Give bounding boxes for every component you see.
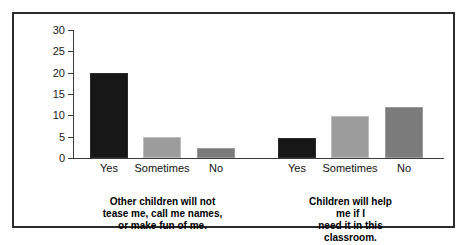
category-label-g2-yes: Yes xyxy=(288,163,306,174)
y-tick-label: 10 xyxy=(53,110,65,121)
y-tick-mark xyxy=(68,115,73,116)
chart-frame: 051015202530 YesSometimesNoYesSometimesN… xyxy=(12,12,455,228)
y-tick-mark xyxy=(68,94,73,95)
bar-g2-no xyxy=(385,107,423,158)
x-axis-line xyxy=(73,158,444,159)
group-caption-2: Children will help me if I need it in th… xyxy=(304,196,398,244)
category-label-g1-no: No xyxy=(209,163,223,174)
y-tick-label: 0 xyxy=(59,153,65,164)
y-tick-label: 20 xyxy=(53,67,65,78)
y-tick-mark xyxy=(68,73,73,74)
bar-g2-sometimes xyxy=(331,116,369,158)
y-tick-mark xyxy=(68,30,73,31)
y-axis-line xyxy=(73,30,74,158)
y-tick-label: 25 xyxy=(53,46,65,57)
bar-g1-no xyxy=(197,148,235,158)
y-tick-label: 5 xyxy=(59,131,65,142)
bar-g2-yes xyxy=(278,138,316,158)
y-tick-label: 30 xyxy=(53,25,65,36)
y-tick-label: 15 xyxy=(53,89,65,100)
y-tick-mark xyxy=(68,51,73,52)
bar-g1-yes xyxy=(90,73,128,158)
plot-area: 051015202530 YesSometimesNoYesSometimesN… xyxy=(73,30,444,158)
bar-g1-sometimes xyxy=(143,137,181,158)
category-label-g2-sometimes: Sometimes xyxy=(322,163,377,174)
category-label-g2-no: No xyxy=(397,163,411,174)
y-tick-mark xyxy=(68,158,73,159)
category-label-g1-yes: Yes xyxy=(100,163,118,174)
group-caption-1: Other children will not tease me, call m… xyxy=(103,196,223,232)
y-tick-mark xyxy=(68,137,73,138)
category-label-g1-sometimes: Sometimes xyxy=(134,163,189,174)
